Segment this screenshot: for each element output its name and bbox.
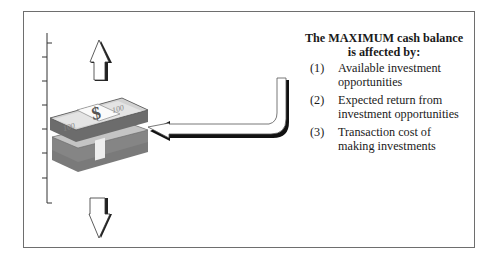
factor-text-line-1: Transaction cost of	[338, 126, 472, 140]
factors-list: (1) Available investment opportunities (…	[296, 62, 472, 154]
curved-arrow-icon	[148, 78, 289, 141]
factor-item: (2) Expected return from investment oppo…	[310, 94, 472, 121]
factor-number: (2)	[310, 94, 324, 108]
factor-text-line-1: Expected return from	[338, 94, 472, 108]
factor-item: (1) Available investment opportunities	[310, 62, 472, 89]
up-arrow-icon	[90, 40, 112, 81]
factor-number: (3)	[310, 126, 324, 140]
factor-number: (1)	[310, 62, 324, 76]
money-stack-icon: $ 100 100	[50, 98, 148, 172]
heading-line-2: is affected by:	[296, 45, 472, 59]
factors-panel: The MAXIMUM cash balance is affected by:…	[296, 31, 472, 159]
factor-text-line-2: opportunities	[338, 76, 472, 90]
factor-item: (3) Transaction cost of making investmen…	[310, 126, 472, 153]
factor-text-line-2: making investments	[338, 140, 472, 154]
heading-line-1: The MAXIMUM cash balance	[296, 31, 472, 45]
factors-heading: The MAXIMUM cash balance is affected by:	[296, 31, 472, 59]
factor-text-line-2: investment opportunities	[338, 108, 472, 122]
down-arrow-icon	[89, 198, 112, 238]
factor-text-line-1: Available investment	[338, 62, 472, 76]
